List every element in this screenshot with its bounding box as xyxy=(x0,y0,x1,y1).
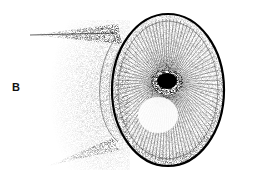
panel-label: B xyxy=(12,81,20,93)
pupil xyxy=(151,69,183,95)
eye-illustration xyxy=(0,0,256,179)
bright-patch xyxy=(138,97,178,133)
